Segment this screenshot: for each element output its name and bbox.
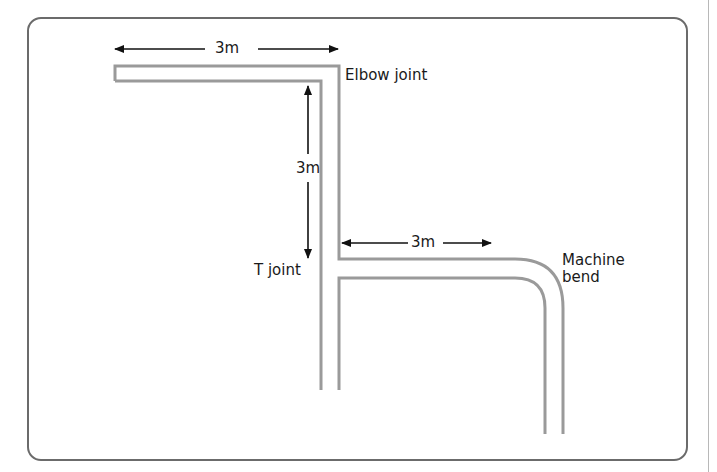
- pipe-inner-wall: [115, 81, 321, 390]
- bend-inner-wall: [515, 278, 545, 434]
- elbow-joint-label: Elbow joint: [345, 67, 427, 84]
- t-joint-label: T joint: [254, 262, 301, 279]
- dimension-label-vertical: 3m: [296, 160, 320, 177]
- machine-bend-label: Machine bend: [562, 252, 642, 286]
- pipe-main: [115, 66, 515, 390]
- machine-bend-pipe: [515, 259, 563, 434]
- dimension-label-top: 3m: [215, 40, 239, 57]
- dimension-label-branch: 3m: [411, 234, 435, 251]
- pipe-lower-right-wall: [339, 278, 515, 390]
